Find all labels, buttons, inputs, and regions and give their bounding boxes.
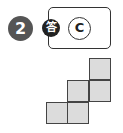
answer-choice-circle: C	[68, 17, 91, 40]
answer-label-badge: 答	[42, 19, 60, 37]
figure-square	[67, 80, 89, 102]
figure-square	[89, 58, 111, 80]
figure-square	[89, 80, 111, 102]
figure-square	[67, 102, 89, 124]
problem-number-badge: 2	[8, 16, 33, 41]
figure-square	[46, 102, 68, 124]
